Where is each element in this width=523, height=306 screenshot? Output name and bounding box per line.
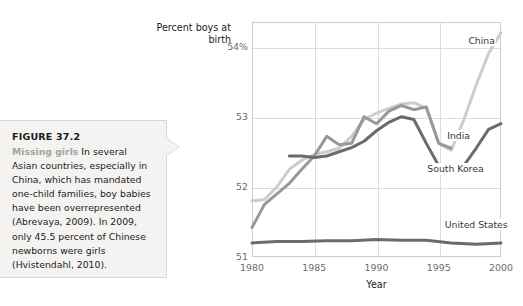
y-axis-tick-53: 53 — [208, 111, 248, 122]
figure-number: FIGURE 37.2 — [12, 131, 154, 142]
y-axis-tick-labels: 51525354% — [205, 0, 248, 306]
series-label-south-korea: South Korea — [426, 163, 484, 174]
x-axis-title: Year — [252, 279, 501, 290]
y-axis-tick-51: 51 — [208, 251, 248, 262]
x-axis-tick-1980: 1980 — [230, 262, 274, 273]
series-label-india: India — [446, 130, 471, 141]
caption-pointer-tail — [166, 138, 179, 156]
caption-body-text: In several Asian countries, especially i… — [12, 146, 151, 270]
series-line-india — [252, 105, 451, 227]
series-line-united-states — [252, 239, 501, 244]
y-axis-tick-54: 54% — [208, 41, 248, 52]
x-axis-tick-labels: 19801985199019952000 — [252, 262, 501, 276]
caption-lead-in: Missing girls — [12, 146, 78, 157]
x-axis-tick-1985: 1985 — [292, 262, 336, 273]
series-label-china: China — [467, 35, 496, 46]
series-label-united-states: United States — [444, 219, 509, 230]
x-axis-tick-2000: 2000 — [479, 262, 523, 273]
figure-caption-text: Missing girls In several Asian countries… — [12, 145, 154, 272]
series-line-china — [252, 33, 501, 201]
x-axis-tick-1990: 1990 — [355, 262, 399, 273]
y-axis-tick-52: 52 — [208, 181, 248, 192]
figure-caption-box: FIGURE 37.2 Missing girls In several Asi… — [0, 120, 167, 278]
x-axis-tick-1995: 1995 — [417, 262, 461, 273]
